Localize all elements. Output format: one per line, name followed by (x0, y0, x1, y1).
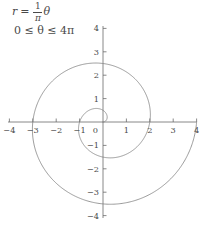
y-tick-label: 1 (94, 94, 99, 104)
x-tick-label: −2 (50, 125, 62, 135)
y-tick-label: −3 (87, 187, 99, 197)
x-tick-label: 4 (194, 125, 199, 135)
x-tick-label: 2 (147, 125, 152, 135)
y-tick-label: −4 (87, 211, 99, 221)
equation-annotations: r = 1 π θ 0 ≤ θ ≤ 4π (12, 2, 107, 37)
x-tick-label: −3 (27, 125, 39, 135)
x-tick-label: 0 (93, 125, 98, 135)
fraction-denominator: π (35, 14, 41, 23)
axes-group (8, 26, 196, 218)
equation-theta: θ (43, 6, 50, 18)
equation-equals: = (20, 6, 29, 18)
y-tick-label: −1 (87, 140, 99, 150)
equation-polar: r = 1 π θ (12, 2, 107, 23)
equation-lhs: r (12, 6, 17, 18)
y-tick-label: 2 (94, 70, 99, 80)
y-tick-label: 3 (94, 47, 99, 57)
figure-canvas: −4−3−2−101234−4−3−2−11234 r = 1 π θ 0 ≤ … (0, 0, 199, 225)
fraction-numerator: 1 (35, 2, 41, 11)
x-tick-label: 3 (171, 125, 176, 135)
x-tick-label: −4 (3, 125, 15, 135)
fraction-one-over-pi: 1 π (33, 2, 42, 23)
x-tick-label: −1 (74, 125, 86, 135)
y-tick-label: −2 (87, 164, 99, 174)
equation-domain: 0 ≤ θ ≤ 4π (14, 25, 107, 37)
x-tick-label: 1 (124, 125, 129, 135)
